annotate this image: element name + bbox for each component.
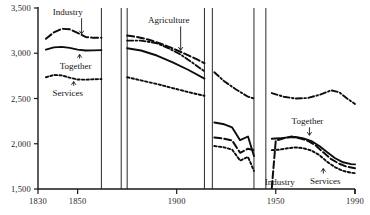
period-break-lines: [101, 8, 265, 189]
y-tick-label-2000: 2,000: [11, 139, 31, 149]
annotation-label-industry-0: Industry: [53, 7, 83, 17]
annotation-label-together-1: Together: [60, 61, 92, 71]
series-industry: [46, 29, 355, 188]
series-line-agriculture-seg2: [272, 90, 355, 104]
x-tick-label-1900: 1900: [168, 196, 186, 206]
annotation-label-together-4: Together: [292, 116, 324, 126]
annotation-label-agriculture-3: Agriculture: [148, 15, 189, 25]
series-line-services-seg0: [46, 75, 101, 80]
chart-figure: 1,5002,0002,5003,0003,500 18301850190019…: [0, 0, 370, 215]
y-tick-label-1500: 1,500: [11, 184, 31, 194]
x-tick-label-1990: 1990: [346, 196, 364, 206]
series-line-services-seg1: [127, 77, 204, 96]
series-line-together-seg0: [46, 47, 101, 51]
y-tick-labels: 1,5002,0002,5003,0003,500: [11, 3, 31, 194]
y-tick-label-3000: 3,000: [11, 48, 31, 58]
x-tick-labels: 18301850190019501990: [29, 196, 364, 206]
x-tick-label-1830: 1830: [29, 196, 47, 206]
x-tick-label-1850: 1850: [69, 196, 87, 206]
series-line-agriculture-seg1: [214, 72, 254, 98]
y-tick-label-3500: 3,500: [11, 3, 31, 13]
series-agriculture: [127, 41, 355, 104]
series-line-industry-seg0: [46, 29, 101, 39]
series-together: [46, 47, 355, 164]
annotation-label-services-6: Services: [310, 176, 341, 186]
y-tick-label-2500: 2,500: [11, 94, 31, 104]
x-tick-label-1950: 1950: [267, 196, 285, 206]
line-chart: 1,5002,0002,5003,0003,500 18301850190019…: [0, 0, 370, 215]
series-group: [46, 29, 355, 188]
annotation-label-services-2: Services: [52, 88, 83, 98]
series-line-services-seg3: [272, 147, 355, 173]
annotation-label-industry-5: Industry: [265, 177, 295, 187]
series-annotations: IndustryTogetherServicesAgricultureToget…: [52, 7, 341, 187]
